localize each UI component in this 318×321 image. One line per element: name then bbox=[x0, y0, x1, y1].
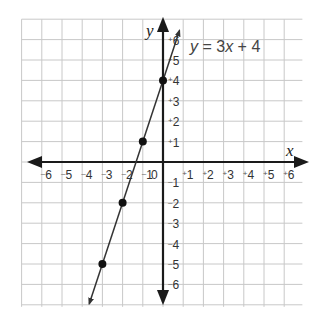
x-tick-label: +5 bbox=[263, 168, 275, 182]
x-tick-label: –4 bbox=[81, 168, 92, 182]
y-tick-label: +1 bbox=[168, 136, 180, 150]
y-tick-label: +2 bbox=[168, 115, 180, 129]
data-point bbox=[139, 138, 147, 146]
x-tick-label: –3 bbox=[101, 168, 112, 182]
x-tick-label: +6 bbox=[283, 168, 295, 182]
y-tick-label: –3 bbox=[168, 217, 179, 231]
equation-rest: + 4 bbox=[233, 38, 260, 55]
coordinate-plane: –6–5–4–3–2–10+1+2+3+4+5+6+6+5+4+3+2+1–1–… bbox=[0, 0, 318, 321]
y-tick-label: –6 bbox=[168, 278, 179, 292]
x-tick-label: –6 bbox=[41, 168, 52, 182]
equation-label: y = 3x + 4 bbox=[189, 38, 260, 55]
x-tick-label: +3 bbox=[223, 168, 235, 182]
data-point bbox=[119, 199, 127, 207]
x-tick-label: –5 bbox=[61, 168, 72, 182]
equation-eq: = 3 bbox=[198, 38, 225, 55]
y-tick-label: –4 bbox=[168, 238, 179, 252]
x-tick-label: +1 bbox=[182, 168, 194, 182]
data-point bbox=[98, 260, 106, 268]
y-tick-label: +3 bbox=[168, 95, 180, 109]
y-tick-label: –2 bbox=[168, 197, 179, 211]
y-tick-label: –5 bbox=[168, 258, 179, 272]
data-point bbox=[159, 76, 167, 84]
x-axis-label: x bbox=[285, 141, 294, 160]
y-tick-label: –1 bbox=[168, 176, 179, 190]
x-tick-label: +2 bbox=[202, 168, 214, 182]
x-tick-label: 0 bbox=[151, 168, 158, 182]
y-tick-label: +4 bbox=[168, 74, 180, 88]
y-axis-label: y bbox=[144, 21, 154, 40]
x-tick-label: +4 bbox=[243, 168, 255, 182]
